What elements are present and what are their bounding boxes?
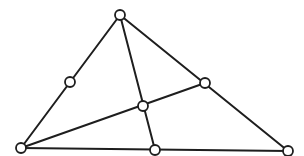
edge-layer <box>21 15 288 151</box>
node-bottom-mid <box>150 145 160 155</box>
node-right-mid <box>200 78 210 88</box>
node-bottom-right <box>283 146 293 156</box>
edge-apex-to-bottom-mid <box>120 15 155 150</box>
node-bottom-left <box>16 143 26 153</box>
node-center <box>138 101 148 111</box>
edge-bottom-left-to-right-mid <box>21 83 205 148</box>
triangle-diagram <box>0 0 304 156</box>
node-apex <box>115 10 125 20</box>
node-left-mid <box>65 77 75 87</box>
